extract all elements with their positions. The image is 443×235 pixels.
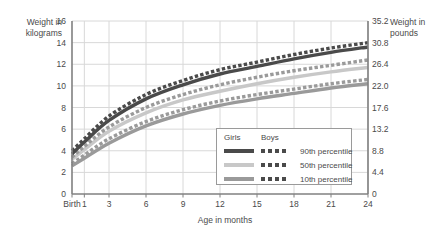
y-axis-right-tick-label: 17.6 <box>372 103 402 113</box>
y-axis-left-tick-label: 16 <box>44 16 66 26</box>
y-axis-left-tick-label: 6 <box>44 124 66 134</box>
y-axis-right-tick-label: 22.0 <box>372 81 402 91</box>
y-axis-left-tick-label: 0 <box>44 189 66 199</box>
y-axis-left-tick-label: 4 <box>44 146 66 156</box>
legend-swatch-boys <box>261 149 293 153</box>
x-axis-tick-label: 15 <box>237 199 277 209</box>
x-axis-tick-label: 24 <box>348 199 388 209</box>
y-axis-left-tick-label: 2 <box>44 167 66 177</box>
legend-swatch-girls <box>224 177 254 181</box>
x-axis-tick-label: 18 <box>274 199 314 209</box>
y-axis-right-tick-label: 26.4 <box>372 59 402 69</box>
legend-swatch-girls <box>224 163 254 167</box>
x-axis-tick-label: 12 <box>200 199 240 209</box>
legend: Girls Boys 90th percentile50th percentil… <box>216 128 352 185</box>
y-axis-right-tick-label: 0 <box>372 189 402 199</box>
legend-row: 50th percentile <box>217 159 351 173</box>
x-axis-tick-label: 9 <box>163 199 203 209</box>
legend-header-boys: Boys <box>261 133 279 142</box>
legend-row-label: 10th percentile <box>300 175 352 184</box>
legend-row-label: 90th percentile <box>300 147 352 156</box>
y-axis-right-tick-label: 30.8 <box>372 38 402 48</box>
legend-header-girls: Girls <box>224 133 240 142</box>
y-axis-right-tick-label: 8.8 <box>372 146 402 156</box>
legend-swatch-boys <box>261 163 293 167</box>
y-axis-right-tick-label: 4.4 <box>372 167 402 177</box>
legend-row: 10th percentile <box>217 173 351 187</box>
x-axis-tick-label: 21 <box>311 199 351 209</box>
y-axis-left-tick-label: 10 <box>44 81 66 91</box>
legend-swatch-girls <box>224 149 254 153</box>
y-axis-left-tick-label: 8 <box>44 103 66 113</box>
growth-chart: Weight in kilograms Weight in pounds Age… <box>0 0 443 235</box>
x-axis-tick-label: 6 <box>126 199 166 209</box>
x-axis-tick-label: 3 <box>89 199 129 209</box>
y-axis-right-tick-label: 35.2 <box>372 16 402 26</box>
y-axis-right-tick-label: 13.2 <box>372 124 402 134</box>
legend-row: 90th percentile <box>217 145 351 159</box>
y-axis-left-tick-label: 14 <box>44 38 66 48</box>
y-axis-left-tick-label: 12 <box>44 59 66 69</box>
legend-row-label: 50th percentile <box>300 161 352 170</box>
legend-swatch-boys <box>261 177 293 181</box>
